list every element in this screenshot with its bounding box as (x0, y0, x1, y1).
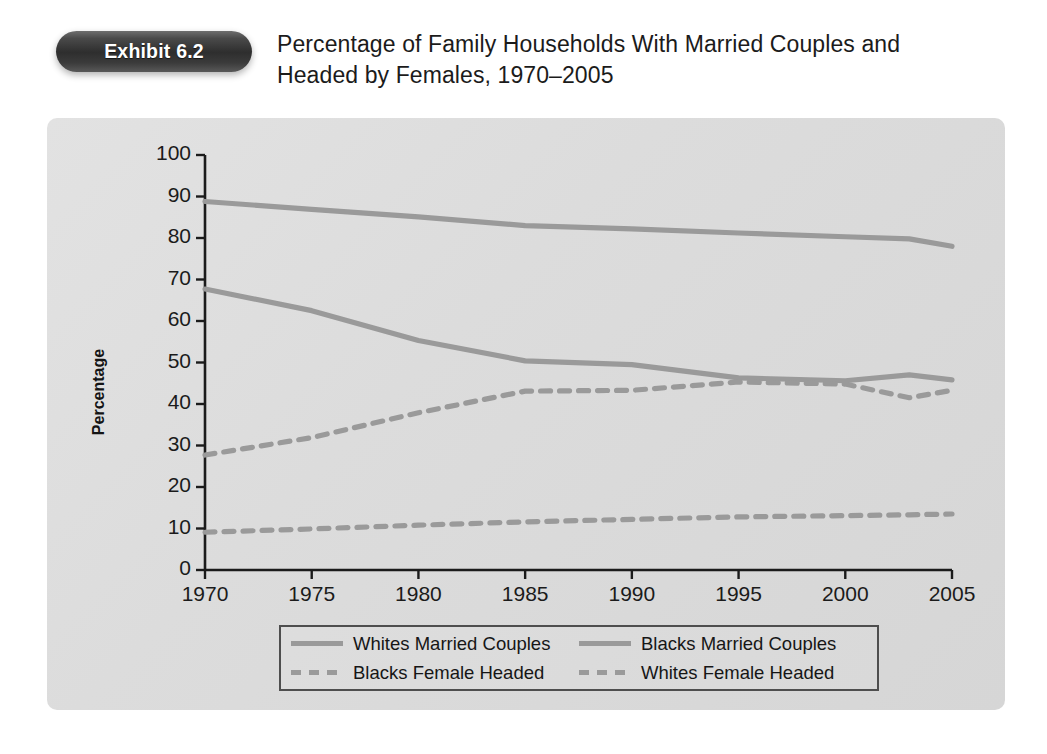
exhibit-title: Percentage of Family Households With Mar… (277, 29, 997, 91)
legend-item[interactable]: Blacks Married Couples (579, 630, 867, 658)
chart-series-line (205, 514, 952, 532)
legend-swatch-dashed-icon (579, 670, 631, 675)
legend-item[interactable]: Whites Female Headed (579, 659, 867, 687)
legend-swatch-solid-icon (579, 641, 631, 646)
chart-series-line (205, 201, 952, 246)
plot-area: Percentage 1009080706050403020100 197019… (47, 118, 1005, 710)
exhibit-badge-label: Exhibit 6.2 (104, 40, 204, 63)
exhibit-title-line1: Percentage of Family Households With Mar… (277, 29, 997, 60)
chart-panel: Percentage 1009080706050403020100 197019… (47, 118, 1005, 710)
exhibit-header: Exhibit 6.2 Percentage of Family Househo… (0, 0, 1047, 118)
legend-item-label: Blacks Married Couples (641, 633, 836, 655)
chart-plot (47, 118, 1005, 710)
legend-swatch-dashed-icon (291, 670, 343, 675)
chart-legend: Whites Married CouplesBlacks Married Cou… (279, 625, 879, 691)
chart-series-line (205, 382, 952, 455)
exhibit-title-line2: Headed by Females, 1970–2005 (277, 60, 997, 91)
legend-item-label: Whites Female Headed (641, 662, 834, 684)
legend-swatch-solid-icon (291, 641, 343, 646)
exhibit-page: Exhibit 6.2 Percentage of Family Househo… (0, 0, 1047, 754)
legend-item-label: Blacks Female Headed (353, 662, 544, 684)
legend-item[interactable]: Whites Married Couples (291, 630, 579, 658)
legend-item[interactable]: Blacks Female Headed (291, 659, 579, 687)
exhibit-badge: Exhibit 6.2 (56, 31, 252, 72)
legend-item-label: Whites Married Couples (353, 633, 550, 655)
chart-series-line (205, 289, 952, 381)
